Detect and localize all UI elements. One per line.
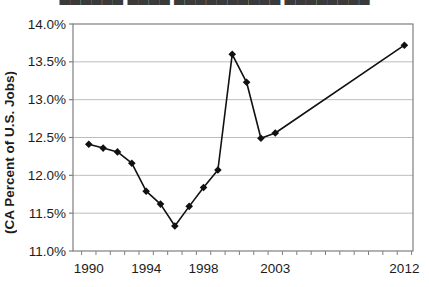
data-point-marker xyxy=(85,141,93,149)
data-point-marker xyxy=(243,78,251,86)
data-line xyxy=(89,45,405,226)
y-tick-label: 12.0% xyxy=(28,168,66,183)
y-tick-label: 12.5% xyxy=(28,130,66,145)
x-tick-label: 1998 xyxy=(189,261,219,276)
x-tick-label: 2012 xyxy=(389,261,419,276)
x-tick-label: 2003 xyxy=(260,261,290,276)
plot-svg: 14.0%13.5%13.0%12.5%12.0%11.5%11.0%19901… xyxy=(0,0,429,287)
data-point-marker xyxy=(99,144,107,152)
y-tick-label: 11.0% xyxy=(29,244,66,259)
chart-container: ██████ ████ ██████████ ████████ (CA Perc… xyxy=(0,0,429,287)
y-tick-label: 14.0% xyxy=(28,17,66,32)
data-point-marker xyxy=(257,134,265,142)
data-point-marker xyxy=(228,50,236,58)
y-tick-label: 13.5% xyxy=(28,54,66,69)
x-tick-label: 1994 xyxy=(131,261,162,276)
x-tick-label: 1990 xyxy=(74,261,104,276)
y-tick-label: 13.0% xyxy=(28,92,66,107)
y-tick-label: 11.5% xyxy=(29,206,66,221)
